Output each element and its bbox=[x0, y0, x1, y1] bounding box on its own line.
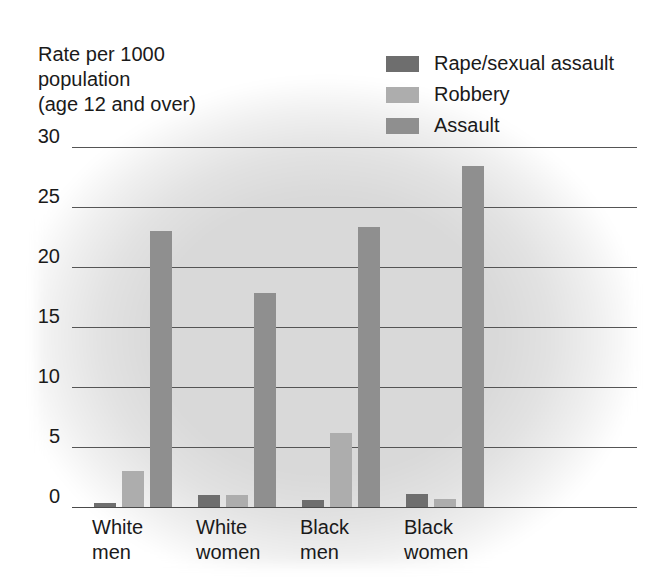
bar bbox=[150, 231, 172, 507]
bar bbox=[94, 503, 116, 507]
bar-group bbox=[198, 147, 276, 507]
bar bbox=[330, 433, 352, 507]
legend-swatch-robbery bbox=[386, 87, 419, 103]
legend-swatch-rape-sexual-assault bbox=[386, 56, 419, 72]
x-axis-category-label: Black women bbox=[404, 515, 468, 565]
legend: Rape/sexual assaultRobberyAssault bbox=[386, 48, 614, 141]
bar bbox=[406, 494, 428, 507]
x-axis-category-label: White women bbox=[196, 515, 260, 565]
y-axis-title: Rate per 1000 population (age 12 and ove… bbox=[38, 42, 196, 117]
bar-group bbox=[302, 147, 380, 507]
plot-area: 302520151050 White menWhite womenBlack m… bbox=[72, 147, 637, 507]
bar bbox=[198, 495, 220, 507]
y-axis-tick-label: 5 bbox=[49, 425, 60, 447]
legend-item: Rape/sexual assault bbox=[386, 48, 614, 79]
x-axis-category-label: White men bbox=[92, 515, 143, 565]
bar-series-container bbox=[72, 147, 637, 507]
legend-item: Robbery bbox=[386, 79, 614, 110]
chart-page: Rate per 1000 population (age 12 and ove… bbox=[0, 0, 663, 586]
bar bbox=[226, 495, 248, 507]
y-axis-tick-label: 15 bbox=[38, 305, 60, 327]
legend-swatch-assault bbox=[386, 118, 419, 134]
bar bbox=[122, 471, 144, 507]
bar bbox=[302, 500, 324, 507]
x-axis-category-label: Black men bbox=[300, 515, 349, 565]
y-axis-tick-label: 20 bbox=[38, 245, 60, 267]
bar-group bbox=[94, 147, 172, 507]
bar bbox=[462, 166, 484, 507]
legend-item-label: Assault bbox=[434, 114, 500, 137]
bar-group bbox=[406, 147, 484, 507]
y-axis-tick-label: 10 bbox=[38, 365, 60, 387]
bar bbox=[434, 499, 456, 507]
y-axis-tick-label: 25 bbox=[38, 185, 60, 207]
legend-item-label: Rape/sexual assault bbox=[434, 52, 614, 75]
y-axis-tick-label: 0 bbox=[49, 485, 60, 507]
legend-item: Assault bbox=[386, 110, 614, 141]
legend-item-label: Robbery bbox=[434, 83, 510, 106]
y-axis-tick-label: 30 bbox=[38, 125, 60, 147]
bar bbox=[358, 227, 380, 507]
bar bbox=[254, 293, 276, 507]
axis-baseline: 0 bbox=[72, 507, 637, 508]
